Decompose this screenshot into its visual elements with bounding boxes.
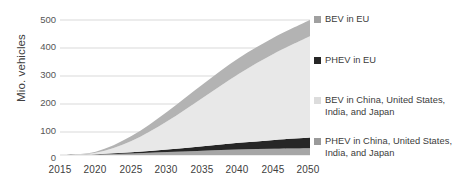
x-tick-2020: 2020 (75, 164, 115, 175)
legend-swatch-bev-china-us-india-japan (314, 97, 321, 104)
y-tick-300: 300 (22, 70, 56, 80)
legend-swatch-bev-eu (314, 16, 321, 23)
x-tick-2030: 2030 (146, 164, 186, 175)
chart-legend: BEV in EU PHEV in EU BEV in China, Unite… (314, 0, 460, 186)
legend-swatch-phev-china-us-india-japan (314, 138, 321, 145)
legend-label-bev-eu: BEV in EU (325, 14, 369, 26)
legend-item-phev-eu[interactable]: PHEV in EU (314, 55, 460, 67)
plot-area (60, 14, 310, 161)
legend-label-bev-china-us-india-japan: BEV in China, United States, India, and … (325, 95, 460, 118)
legend-item-bev-eu[interactable]: BEV in EU (314, 14, 460, 26)
area-chart: Mio. vehicles 500 400 300 200 100 0 2015… (0, 0, 460, 186)
x-tick-2045: 2045 (253, 164, 293, 175)
y-tick-500: 500 (22, 15, 56, 25)
legend-label-phev-china-us-india-japan: PHEV in China, United States, India, and… (325, 136, 460, 159)
y-tick-400: 400 (22, 42, 56, 52)
x-tick-2025: 2025 (111, 164, 151, 175)
x-tick-2035: 2035 (182, 164, 222, 175)
legend-label-phev-eu: PHEV in EU (325, 55, 376, 67)
y-tick-200: 200 (22, 98, 56, 108)
legend-item-phev-china-us-india-japan[interactable]: PHEV in China, United States, India, and… (314, 136, 460, 159)
legend-swatch-phev-eu (314, 57, 321, 64)
y-tick-0: 0 (22, 153, 56, 163)
area-bands (60, 20, 310, 155)
y-tick-100: 100 (22, 126, 56, 136)
x-tick-2015: 2015 (40, 164, 80, 175)
x-tick-2040: 2040 (217, 164, 257, 175)
legend-item-bev-china-us-india-japan[interactable]: BEV in China, United States, India, and … (314, 95, 460, 118)
y-axis-ticks: 500 400 300 200 100 0 (10, 0, 56, 186)
stacked-area-svg (60, 14, 310, 161)
